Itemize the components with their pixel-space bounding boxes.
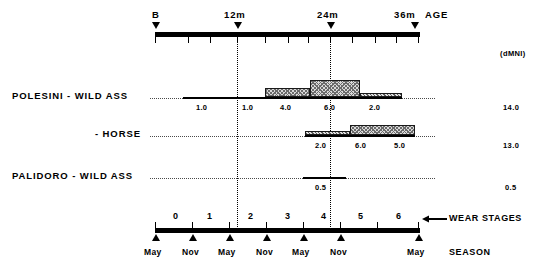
row-leader-line xyxy=(150,178,435,179)
wear-stage-label: 3 xyxy=(285,212,290,221)
age-axis-title: AGE xyxy=(425,10,448,20)
bar-polesini-horse-stage5 xyxy=(350,125,415,135)
wear-stage-label: 5 xyxy=(358,212,363,221)
row-baseline xyxy=(183,97,402,99)
row-baseline xyxy=(305,135,415,137)
wear-stage-axis-bar xyxy=(155,228,420,233)
value-label: 1.0 xyxy=(196,104,207,112)
season-label: Nov xyxy=(256,248,273,257)
season-marker-icon xyxy=(337,234,345,241)
season-axis-title: SEASON xyxy=(449,248,491,257)
age-tick xyxy=(352,37,353,43)
age-tick xyxy=(418,37,419,43)
row-label-palidoro-wild-ass: PALIDORO - WILD ASS xyxy=(12,171,133,181)
wear-stage-tick xyxy=(229,222,230,228)
age-marker-24m-icon xyxy=(327,22,335,29)
age-tick xyxy=(210,37,211,43)
season-label: May xyxy=(292,248,309,257)
value-label: 6.0 xyxy=(355,142,366,150)
age-marker-36m-icon xyxy=(411,22,419,29)
age-tick-label-12m: 12m xyxy=(224,10,246,20)
age-tick-label-24m: 24m xyxy=(317,10,339,20)
bar-polesini-wildass-stage3 xyxy=(265,88,310,97)
age-marker-b-icon xyxy=(152,22,160,29)
wear-stage-tick xyxy=(155,222,156,228)
season-marker-icon xyxy=(152,234,160,241)
wear-stage-label: 2 xyxy=(248,212,253,221)
value-label: 6.0 xyxy=(324,104,335,112)
season-marker-icon xyxy=(226,234,234,241)
dmni-value-polesini-wild-ass: 14.0 xyxy=(503,104,519,112)
season-label: May xyxy=(144,248,161,257)
bar-polesini-wildass-stage4 xyxy=(310,80,360,97)
value-label: 4.0 xyxy=(280,104,291,112)
row-label-polesini-wild-ass: POLESINI - WILD ASS xyxy=(12,91,128,101)
bar-polesini-horse-stage4 xyxy=(305,131,350,135)
dmni-value-polesini-horse: 13.0 xyxy=(503,142,519,150)
wear-stage-tick xyxy=(192,222,193,228)
value-label: 5.0 xyxy=(394,142,405,150)
dmni-value-palidoro-wild-ass: 0.5 xyxy=(505,184,517,192)
age-tick-label-b: B xyxy=(152,10,160,20)
age-tick xyxy=(288,37,289,43)
season-marker-icon xyxy=(415,234,423,241)
mortality-profile-figure: B 12m 24m 36m AGE (dMNI) POLESINI - WILD… xyxy=(0,0,544,273)
bar-palidoro-wildass-stage4 xyxy=(303,177,346,179)
wear-stage-tick xyxy=(266,222,267,228)
row-label-polesini-horse: - HORSE xyxy=(95,129,141,139)
wear-stage-tick xyxy=(418,222,419,228)
wear-stage-tick xyxy=(303,222,304,228)
bar-polesini-wildass-stage5 xyxy=(360,93,402,97)
wear-stages-arrow-icon xyxy=(422,214,448,224)
age-tick xyxy=(265,37,266,43)
wear-stage-label: 0 xyxy=(173,212,178,221)
value-label: 2.0 xyxy=(315,142,326,150)
season-marker-icon xyxy=(263,234,271,241)
wear-stage-label: 6 xyxy=(396,212,401,221)
age-tick xyxy=(375,37,376,43)
value-label: 1.0 xyxy=(242,104,253,112)
age-marker-12m-icon xyxy=(234,22,242,29)
season-label: May xyxy=(218,248,235,257)
age-tick-label-36m: 36m xyxy=(394,10,416,20)
season-marker-icon xyxy=(300,234,308,241)
season-label: May xyxy=(407,248,424,257)
age-tick xyxy=(308,37,309,43)
wear-stage-label: 4 xyxy=(321,212,326,221)
value-label: 2.0 xyxy=(369,104,380,112)
age-tick xyxy=(155,37,156,43)
dmni-column-header: (dMNI) xyxy=(500,50,526,58)
season-label: Nov xyxy=(330,248,347,257)
wear-stage-tick xyxy=(377,222,378,228)
value-label: 0.5 xyxy=(315,184,326,192)
wear-stage-tick xyxy=(340,222,341,228)
season-label: Nov xyxy=(182,248,199,257)
age-tick xyxy=(396,37,397,43)
wear-stages-title: WEAR STAGES xyxy=(449,214,522,223)
age-tick xyxy=(188,37,189,43)
wear-stage-label: 1 xyxy=(207,212,212,221)
season-marker-icon xyxy=(189,234,197,241)
